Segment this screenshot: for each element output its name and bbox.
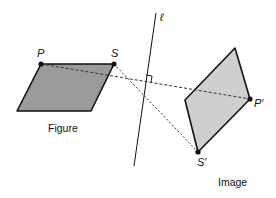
reflection-line bbox=[134, 13, 156, 166]
reflection-diagram: P S P′ S′ ℓ Figure Image bbox=[0, 0, 276, 198]
label-p: P bbox=[37, 47, 45, 59]
label-line-l: ℓ bbox=[159, 11, 164, 23]
point-p bbox=[38, 61, 43, 66]
image-parallelogram bbox=[185, 48, 250, 152]
point-s-prime bbox=[195, 149, 200, 154]
point-s bbox=[111, 61, 116, 66]
point-p-prime bbox=[247, 96, 252, 101]
label-s: S bbox=[111, 47, 119, 59]
connector-s-to-s-prime bbox=[114, 64, 198, 152]
caption-figure: Figure bbox=[48, 122, 78, 134]
label-s-prime: S′ bbox=[197, 156, 207, 168]
figure-parallelogram bbox=[17, 64, 114, 111]
label-p-prime: P′ bbox=[254, 97, 264, 109]
caption-image: Image bbox=[218, 176, 247, 188]
